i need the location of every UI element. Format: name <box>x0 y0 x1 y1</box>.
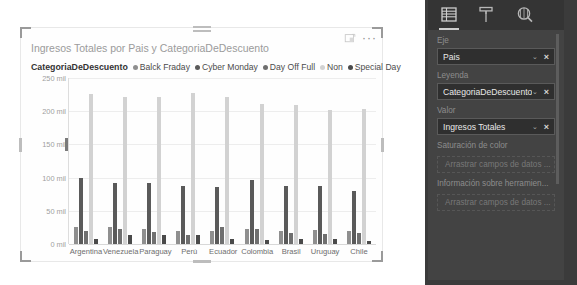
field-name-categoria: CategoriaDeDescuento <box>443 87 532 97</box>
bar[interactable] <box>318 186 322 244</box>
bar-group <box>137 78 171 244</box>
legend-item-label: Day Off Full <box>270 62 315 72</box>
drop-zone-saturacion[interactable]: Arrastrar campos de datos ... <box>437 156 555 173</box>
bar[interactable] <box>118 229 122 244</box>
x-axis-tick-label: Argentina <box>69 247 103 256</box>
bar-group <box>240 78 274 244</box>
bar[interactable] <box>245 229 249 244</box>
bar[interactable] <box>357 233 361 244</box>
legend-swatch <box>133 65 138 70</box>
bar[interactable] <box>123 97 127 244</box>
visual-title: Ingresos Totales por Pais y CategoriaDeD… <box>31 42 269 54</box>
bar[interactable] <box>294 105 298 244</box>
x-axis-tick-label: Paraguay <box>138 247 172 256</box>
x-axis-tick-label: Ecuador <box>206 247 240 256</box>
bar[interactable] <box>215 187 219 244</box>
well-label-leyenda: Leyenda <box>428 65 564 83</box>
bar[interactable] <box>191 93 195 244</box>
bar[interactable] <box>284 186 288 244</box>
bar[interactable] <box>220 227 224 244</box>
field-name-ingresos: Ingresos Totales <box>443 122 532 132</box>
bar[interactable] <box>186 235 190 244</box>
remove-field-icon[interactable]: × <box>544 52 549 62</box>
bar[interactable] <box>152 232 156 244</box>
bar[interactable] <box>89 94 93 244</box>
bar[interactable] <box>362 109 366 244</box>
report-canvas: ··· Ingresos Totales por Pais y Categori… <box>0 0 425 285</box>
bar[interactable] <box>181 186 185 244</box>
y-axis-tick-label: 150 mil <box>42 140 66 149</box>
fields-list-icon <box>438 4 460 26</box>
legend-item[interactable]: Non <box>320 62 343 72</box>
resize-handle-top-left[interactable] <box>20 27 31 38</box>
bar[interactable] <box>176 231 180 244</box>
fields-tab[interactable] <box>438 4 460 26</box>
chevron-down-icon[interactable]: ⌄ <box>532 123 538 131</box>
legend-swatch <box>195 65 200 70</box>
bar[interactable] <box>255 229 259 244</box>
x-axis-tick-label: Colombia <box>240 247 274 256</box>
more-options-icon[interactable]: ··· <box>362 33 377 43</box>
resize-handle-bottom[interactable] <box>193 260 211 263</box>
bar[interactable] <box>328 110 332 244</box>
bar-group <box>69 78 103 244</box>
x-axis-tick-label: Perú <box>172 247 206 256</box>
bar[interactable] <box>225 97 229 244</box>
legend-swatch <box>263 65 268 70</box>
bar[interactable] <box>157 97 161 244</box>
legend-item[interactable]: Day Off Full <box>263 62 315 72</box>
bar[interactable] <box>142 229 146 244</box>
bar[interactable] <box>108 227 112 244</box>
y-axis-scroll-thumb[interactable] <box>65 138 68 151</box>
bar-group <box>274 78 308 244</box>
format-tab[interactable] <box>476 4 498 26</box>
y-axis-tick-label: 0 mil <box>50 240 66 249</box>
x-axis-line <box>69 244 376 245</box>
bar-group <box>171 78 205 244</box>
legend-item[interactable]: Special Day <box>348 62 401 72</box>
resize-handle-top-secondary[interactable] <box>193 30 211 32</box>
bar-chart-visual[interactable]: ··· Ingresos Totales por Pais y Categori… <box>20 27 383 262</box>
y-axis-tick-label: 200 mil <box>42 107 66 116</box>
field-well-eje[interactable]: Pais ⌄ × <box>437 48 555 65</box>
analytics-tab[interactable] <box>514 4 536 26</box>
bar[interactable] <box>352 191 356 244</box>
bar[interactable] <box>128 235 132 244</box>
bar[interactable] <box>84 231 88 244</box>
remove-field-icon[interactable]: × <box>544 122 549 132</box>
x-axis-tick-label: Venezuela <box>103 247 138 256</box>
bar[interactable] <box>147 183 151 244</box>
pane-scrollbar[interactable] <box>556 34 559 184</box>
resize-handle-right[interactable] <box>381 138 384 152</box>
bar[interactable] <box>289 233 293 244</box>
bar[interactable] <box>347 231 351 244</box>
resize-handle-left[interactable] <box>19 138 22 152</box>
bar[interactable] <box>162 235 166 244</box>
bar[interactable] <box>210 231 214 244</box>
focus-mode-icon[interactable] <box>344 32 357 44</box>
field-well-valor[interactable]: Ingresos Totales ⌄ × <box>437 118 555 135</box>
bar-group <box>342 78 376 244</box>
bar[interactable] <box>79 178 83 244</box>
field-well-leyenda[interactable]: CategoriaDeDescuento ⌄ × <box>437 83 555 100</box>
resize-handle-top[interactable] <box>193 26 211 28</box>
bar[interactable] <box>250 180 254 244</box>
bar[interactable] <box>323 234 327 244</box>
legend-item-label: Special Day <box>355 62 401 72</box>
well-label-eje: Eje <box>428 30 564 48</box>
drop-zone-tooltips[interactable]: Arrastrar campos de datos ... <box>437 194 555 211</box>
remove-field-icon[interactable]: × <box>544 87 549 97</box>
paint-roller-icon <box>476 4 498 26</box>
legend-item[interactable]: Balck Fraday <box>133 62 190 72</box>
bar[interactable] <box>196 235 200 244</box>
legend-item[interactable]: Cyber Monday <box>195 62 258 72</box>
well-label-tooltips: Información sobre herramien... <box>428 173 564 191</box>
bar[interactable] <box>260 104 264 244</box>
chevron-down-icon[interactable]: ⌄ <box>532 88 538 96</box>
bar[interactable] <box>313 230 317 244</box>
visualizations-pane-inner: Eje Pais ⌄ × Leyenda CategoriaDeDescuent… <box>428 0 564 280</box>
bar[interactable] <box>113 183 117 244</box>
chevron-down-icon[interactable]: ⌄ <box>532 53 538 61</box>
bar[interactable] <box>74 227 78 244</box>
bar[interactable] <box>279 231 283 244</box>
